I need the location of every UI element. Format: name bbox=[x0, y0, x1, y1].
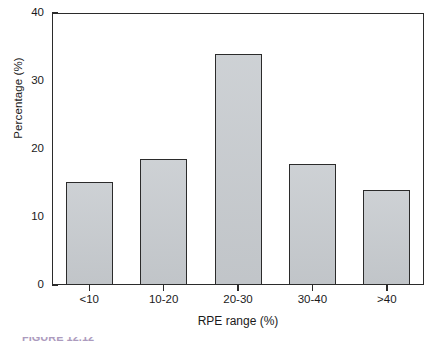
x-axis-tick-mark bbox=[89, 285, 90, 291]
bar-3 bbox=[289, 164, 336, 285]
x-axis-tick-mark bbox=[386, 285, 387, 291]
y-axis-tick-label: 10 bbox=[10, 210, 44, 222]
x-axis-tick-mark bbox=[237, 285, 238, 291]
y-axis-tick-label: 20 bbox=[10, 142, 44, 154]
x-axis-tick-label: 20-30 bbox=[198, 293, 278, 305]
y-axis-title: Percentage (%) bbox=[12, 18, 24, 178]
x-axis-tick-label: >40 bbox=[347, 293, 427, 305]
x-axis-tick-label: 10-20 bbox=[124, 293, 204, 305]
y-axis-tick-label: 40 bbox=[10, 6, 44, 18]
bar-2 bbox=[215, 54, 262, 285]
x-axis-tick-label: <10 bbox=[49, 293, 129, 305]
x-axis-title: RPE range (%) bbox=[52, 314, 424, 328]
x-axis-tick-mark bbox=[163, 285, 164, 291]
figure-caption-text: FIGURE 12.12 bbox=[22, 337, 94, 343]
y-axis-tick-label: 30 bbox=[10, 74, 44, 86]
x-axis-tick-mark bbox=[312, 285, 313, 291]
x-axis-tick-label: 30-40 bbox=[272, 293, 352, 305]
bar-4 bbox=[363, 190, 410, 285]
figure-container: Percentage (%) 0 10 20 30 40 <10 10-20 2… bbox=[0, 0, 442, 345]
y-axis-tick-label: 0 bbox=[10, 278, 44, 290]
figure-caption-label: FIGURE 12.12 bbox=[22, 337, 94, 343]
figure-caption-sliver: FIGURE 12.12 bbox=[0, 337, 442, 345]
bar-1 bbox=[140, 159, 187, 285]
bar-0 bbox=[66, 182, 113, 285]
